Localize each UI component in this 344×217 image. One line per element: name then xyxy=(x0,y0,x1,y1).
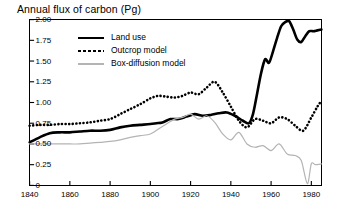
y-tick-label: 0.25 xyxy=(36,160,52,169)
x-tick-label: 1940 xyxy=(211,190,251,199)
x-tick-label: 1960 xyxy=(251,190,291,199)
y-tick-label: 0 xyxy=(36,181,40,190)
legend-line-sample xyxy=(78,50,104,52)
legend-swatch xyxy=(78,59,104,68)
y-tick-label: 1.25 xyxy=(36,77,52,86)
legend-item: Outcrop model xyxy=(78,44,186,57)
y-tick-label: 1.50 xyxy=(36,57,52,66)
x-tick-label: 1860 xyxy=(50,190,90,199)
legend-label: Outcrop model xyxy=(111,46,167,55)
legend-label: Box-diffusion model xyxy=(111,59,186,68)
legend-swatch xyxy=(78,33,104,42)
chart-legend: Land useOutcrop modelBox-diffusion model xyxy=(78,31,186,70)
legend-swatch xyxy=(78,46,104,55)
y-tick-label: 1.75 xyxy=(36,36,52,45)
y-tick-label: 0.50 xyxy=(36,139,52,148)
series-line xyxy=(30,82,322,131)
x-tick-label: 1980 xyxy=(291,190,331,199)
legend-label: Land use xyxy=(111,33,146,42)
x-tick-label: 1880 xyxy=(90,190,130,199)
legend-line-sample xyxy=(78,37,104,40)
x-tick-label: 1920 xyxy=(171,190,211,199)
y-tick-label: 2.00 xyxy=(36,15,52,24)
chart-screenshot: Annual flux of carbon (Pg) 00.250.500.75… xyxy=(0,0,344,217)
x-tick-label: 1840 xyxy=(10,190,50,199)
x-tick-label: 1900 xyxy=(130,190,170,199)
legend-item: Box-diffusion model xyxy=(78,57,186,70)
legend-line-sample xyxy=(78,63,104,64)
y-tick-label: 1.00 xyxy=(36,98,52,107)
y-tick-label: 0.75 xyxy=(36,119,52,128)
legend-item: Land use xyxy=(78,31,186,44)
